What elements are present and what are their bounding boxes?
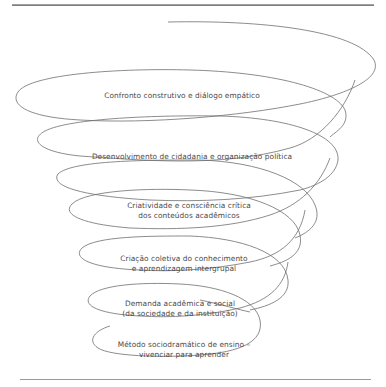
stage-label-4-line1: Criação coletiva do conhecimento bbox=[120, 254, 247, 264]
stage-label-2-line1: Desenvolvimento de cidadania e organizaç… bbox=[92, 152, 292, 161]
stage-label-1: Confronto construtivo e diálogo empático bbox=[104, 91, 260, 101]
stage-label-4: Criação coletiva do conhecimento e apren… bbox=[120, 254, 247, 274]
stage-label-6-line2: vivenciar para aprender bbox=[118, 350, 250, 360]
spiral-diagram bbox=[0, 0, 386, 387]
stage-label-3-line1: Criatividade e consciência crítica bbox=[127, 201, 251, 211]
bottom-rule bbox=[20, 379, 371, 380]
stage-label-4-line2: e aprendizagem intergrupal bbox=[120, 264, 247, 274]
spiral-loop-3 bbox=[57, 160, 317, 238]
stage-label-5-line1: Demanda acadêmica e social bbox=[122, 299, 237, 309]
stage-label-5-line2: (da sociedade e da instituição) bbox=[122, 309, 237, 319]
stage-label-6-line1: Método sociodramático de ensino – bbox=[118, 340, 250, 350]
stage-label-3-line2: dos conteúdos acadêmicos bbox=[127, 211, 251, 221]
stage-label-1-line1: Confronto construtivo e diálogo empático bbox=[104, 91, 260, 100]
stage-label-5: Demanda acadêmica e social (da sociedade… bbox=[122, 299, 237, 319]
stage-label-2: Desenvolvimento de cidadania e organizaç… bbox=[92, 152, 292, 162]
spiral-loop-1 bbox=[16, 70, 346, 137]
stage-label-6: Método sociodramático de ensino – vivenc… bbox=[118, 340, 250, 360]
stage-label-3: Criatividade e consciência crítica dos c… bbox=[127, 201, 251, 221]
